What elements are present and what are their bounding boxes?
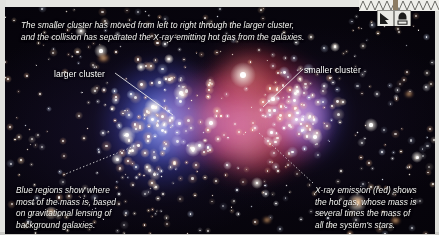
label-larger-cluster: larger cluster (54, 69, 105, 79)
figure-page: The smaller cluster has moved from left … (0, 0, 439, 235)
lamp-glyph-icon (395, 11, 410, 26)
arrow-glyph-icon (378, 11, 393, 26)
label-smaller-cluster: smaller cluster (304, 65, 361, 75)
leader-line-xray-caption (259, 133, 313, 183)
caption-blue-mass-regions: Blue regions show where most of the mass… (16, 185, 168, 231)
bullet-cluster-photograph: The smaller cluster has moved from left … (5, 7, 435, 234)
scan-marker-icon (377, 10, 394, 26)
scan-marker-icon (394, 10, 411, 26)
leader-line-smaller-cluster (263, 69, 303, 107)
leader-line-mass-caption (63, 145, 137, 175)
caption-xray-emission: X-ray emission (red) shows the hot gas, … (315, 185, 435, 231)
scan-artifact-group (357, 0, 439, 26)
leader-line-larger-cluster (115, 73, 173, 115)
figure-top-caption: The smaller cluster has moved from left … (21, 20, 351, 43)
